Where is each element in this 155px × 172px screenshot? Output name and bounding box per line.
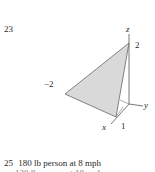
y-axis-label: y — [144, 100, 148, 110]
plane-triangle — [65, 43, 129, 117]
next-problem-number: 25 — [4, 158, 13, 168]
y-axis — [129, 104, 143, 106]
y-intercept-label: −2 — [44, 79, 54, 89]
x-axis-label: x — [102, 122, 106, 132]
x-intercept-label: 1 — [121, 121, 126, 131]
z-axis-label: z — [126, 24, 130, 34]
next-problem-text: 180 lb person at 8 mph — [18, 158, 101, 168]
z-intercept-label: 2 — [135, 40, 140, 50]
next-problem: 25 180 lb person at 8 mph — [4, 158, 101, 168]
plane-diagram — [0, 0, 155, 172]
cut-off-line: 120 lb person at 10 mph — [15, 168, 102, 172]
